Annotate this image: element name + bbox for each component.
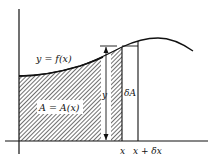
height-label: y <box>101 90 108 100</box>
curve-label: y = f(x) <box>35 53 72 64</box>
delta-area-label: δA <box>124 88 136 98</box>
x-plus-dx-tick-label: x + δx <box>133 146 162 156</box>
area-under-curve-diagram: y = f(x) A = A(x) y δA x x + δx <box>0 0 213 164</box>
area-label: A = A(x) <box>38 102 80 113</box>
x-tick-label: x <box>120 146 125 156</box>
